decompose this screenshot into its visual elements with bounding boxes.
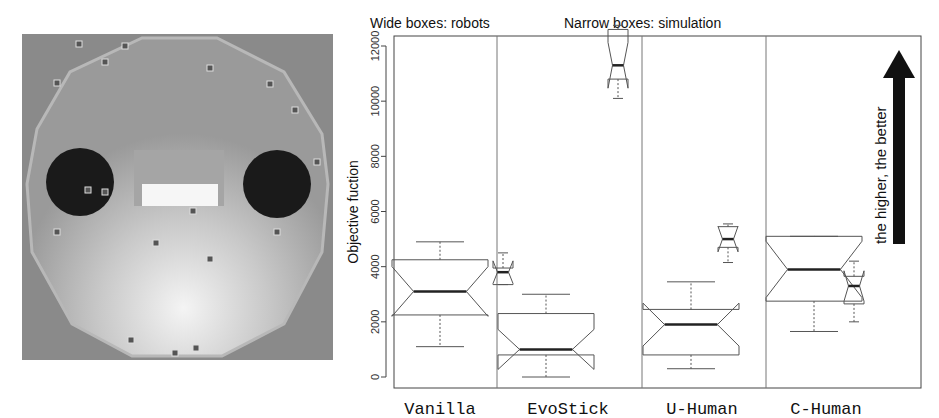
caption-narrow-boxes: Narrow boxes: simulation [564, 15, 721, 31]
robot-box-vanilla [392, 242, 488, 347]
category-label-vanilla: Vanilla [404, 400, 475, 418]
group-separators [497, 36, 766, 388]
arrow-annotation: the higher, the better [872, 106, 889, 244]
box-plot-chart: Wide boxes: robots Narrow boxes: simulat… [0, 0, 939, 418]
arrow-shaft [893, 76, 905, 244]
simulation-box-u-human [718, 224, 738, 263]
y-tick-label: 2000 [369, 310, 381, 334]
plot-frame [394, 36, 921, 388]
y-tick-label: 6000 [369, 199, 381, 223]
robot-box-u-human [643, 282, 739, 369]
x-axis-labels: Vanilla EvoStick U-Human C-Human [404, 400, 861, 418]
arrow-up-icon [883, 50, 915, 78]
y-tick-label: 0 [369, 374, 381, 380]
y-tick-label: 8000 [369, 144, 381, 168]
category-label-c-human: C-Human [790, 400, 861, 418]
y-tick-label: 4000 [369, 254, 381, 278]
category-label-evostick: EvoStick [527, 400, 609, 418]
y-axis: 020004000600080001000012000 [369, 31, 386, 380]
simulation-box-vanilla [493, 253, 513, 285]
box-groups [392, 25, 864, 377]
caption-wide-boxes: Wide boxes: robots [370, 15, 490, 31]
y-tick-label: 12000 [369, 31, 381, 62]
y-axis-label: Objective fuction [345, 160, 361, 264]
y-tick-label: 10000 [369, 86, 381, 117]
simulation-box-c-human [844, 261, 864, 322]
robot-box-evostick [498, 294, 594, 377]
category-label-u-human: U-Human [666, 400, 737, 418]
